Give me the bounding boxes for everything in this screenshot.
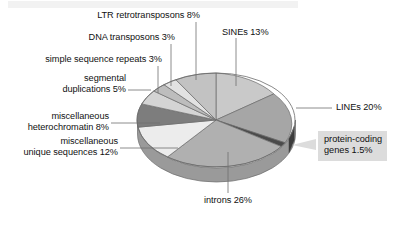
label-ltr-retrotransposons: LTR retrotransposons 8%	[0, 10, 200, 21]
label-miscellaneous-heterochromatin-line2: heterochromatin 8%	[0, 122, 109, 133]
label-introns: introns 26%	[188, 195, 268, 206]
label-simple-sequence-repeats: simple sequence repeats 3%	[0, 54, 162, 65]
callout-protein-coding-genes[interactable]: protein-coding genes 1.5%	[318, 131, 387, 161]
label-miscellaneous-heterochromatin-line1: miscellaneous	[0, 111, 109, 122]
label-sines: SINEs 13%	[222, 27, 269, 38]
callout-protein-coding-genes-line1: protein-coding	[324, 134, 382, 145]
label-dna-transposons: DNA transposons 3%	[0, 32, 175, 43]
callout-pointer-protein-coding-genes	[292, 139, 316, 150]
label-segmental-duplications-line2: duplications 5%	[0, 84, 126, 95]
label-miscellaneous-unique-sequences-line2: unique sequences 12%	[0, 147, 118, 158]
label-miscellaneous-unique-sequences-line1: miscellaneous	[0, 136, 118, 147]
label-segmental-duplications-line1: segmental	[0, 73, 126, 84]
label-lines: LINEs 20%	[336, 102, 382, 113]
chart-figure: LTR retrotransposons 8% DNA transposons …	[0, 0, 401, 228]
callout-protein-coding-genes-line2: genes 1.5%	[324, 145, 382, 156]
